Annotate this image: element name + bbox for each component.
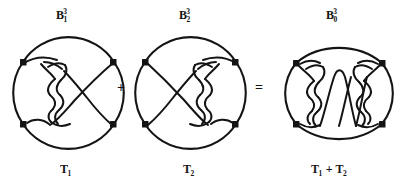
- panel-2-boundary-circle: [135, 37, 246, 149]
- ball-label-0-sup: 3: [333, 7, 337, 16]
- panel-1-strands: [24, 58, 113, 126]
- ball-label-2: B23: [179, 6, 195, 22]
- endpoint-ne: [379, 60, 386, 67]
- tangle-label-sum-base-1: T: [311, 162, 319, 176]
- tangle-label-2-sub: 2: [191, 169, 195, 178]
- endpoint-sw: [293, 121, 300, 128]
- panel-3-strands: [299, 61, 379, 127]
- tangle-label-2: T2: [183, 160, 195, 176]
- panel-1-endpoints: [20, 59, 117, 128]
- plus-operator: +: [117, 81, 125, 95]
- endpoint-sw: [142, 121, 149, 128]
- tangle-panel-3: [285, 48, 393, 139]
- endpoint-nw: [142, 59, 149, 66]
- ball-label-0: B03: [326, 6, 342, 22]
- tangle-label-2-base: T: [183, 162, 191, 176]
- panel-1-boundary-circle: [13, 37, 124, 149]
- endpoint-nw: [293, 60, 300, 67]
- tangle-label-1-base: T: [60, 162, 68, 176]
- endpoint-nw: [20, 59, 27, 66]
- tangle-label-sum-sub-1: 1: [319, 169, 323, 178]
- tangle-label-sum: T1 + T2: [311, 160, 347, 176]
- endpoint-se: [379, 121, 386, 128]
- endpoint-se: [110, 121, 117, 128]
- tangle-panel-2: [135, 37, 246, 149]
- equals-operator: =: [255, 81, 263, 95]
- tangle-panel-1: [13, 37, 124, 149]
- panel-2-strands: [147, 58, 236, 126]
- tangle-label-1: T1: [60, 160, 72, 176]
- tangle-label-sum-operator: +: [323, 162, 336, 176]
- tangle-label-1-sub: 1: [68, 169, 72, 178]
- ball-label-1: B13: [56, 6, 72, 22]
- tangle-label-sum-sub-2: 2: [343, 169, 347, 178]
- ball-label-1-sup: 3: [63, 7, 67, 16]
- endpoint-ne: [232, 59, 239, 66]
- endpoint-se: [232, 121, 239, 128]
- endpoint-ne: [110, 59, 117, 66]
- endpoint-sw: [20, 121, 27, 128]
- tangle-addition-figure: [0, 0, 417, 181]
- ball-label-2-sup: 3: [186, 7, 190, 16]
